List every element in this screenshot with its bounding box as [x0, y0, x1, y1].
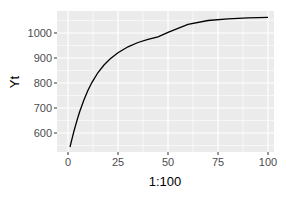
y-tick-label: 900 [34, 52, 52, 64]
x-axis-title: 1:100 [149, 174, 182, 189]
x-tick-label: 100 [259, 156, 277, 168]
x-axis: 0255075100 [65, 152, 277, 168]
y-axis: 6007008009001000 [28, 27, 57, 139]
x-tick-label: 50 [162, 156, 174, 168]
line-chart: 0255075100 6007008009001000 1:100 Yt [0, 0, 287, 198]
plot-panel [57, 11, 274, 152]
y-tick-label: 600 [34, 127, 52, 139]
y-tick-label: 800 [34, 77, 52, 89]
x-tick-label: 25 [112, 156, 124, 168]
x-tick-label: 0 [65, 156, 71, 168]
x-tick-label: 75 [212, 156, 224, 168]
y-axis-title: Yt [7, 75, 22, 88]
y-tick-label: 700 [34, 102, 52, 114]
y-tick-label: 1000 [28, 27, 52, 39]
